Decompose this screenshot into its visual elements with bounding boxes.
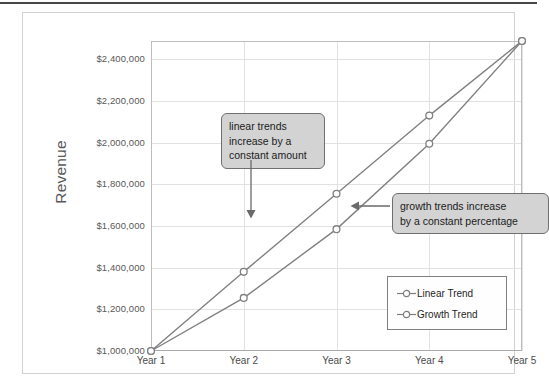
- annotation-growth-line-2: by a constant percentage: [400, 214, 541, 229]
- annotation-linear-line-3: constant amount: [229, 148, 317, 163]
- x-tick-label: Year 3: [322, 355, 351, 366]
- top-divider-rule: [0, 2, 537, 4]
- y-tick-label: $2,000,000: [61, 137, 145, 148]
- annotation-linear-trend: linear trends increase by a constant amo…: [221, 113, 325, 169]
- data-point-marker: [240, 268, 247, 275]
- chart-legend[interactable]: Linear Trend Growth Trend: [387, 276, 507, 330]
- annotation-growth-line-1: growth trends increase: [400, 199, 541, 214]
- data-point-marker: [148, 348, 155, 355]
- annotation-linear-line-2: increase by a: [229, 134, 317, 149]
- legend-item-growth-trend[interactable]: Growth Trend: [388, 304, 506, 325]
- data-point-marker: [426, 140, 433, 147]
- legend-marker-icon: [397, 288, 416, 299]
- y-tick-label: $1,400,000: [61, 262, 145, 273]
- data-point-marker: [519, 38, 526, 45]
- y-tick-label: $1,000,000: [61, 345, 145, 356]
- y-tick-label: $2,200,000: [61, 95, 145, 106]
- data-point-marker: [426, 112, 433, 119]
- data-point-marker: [333, 226, 340, 233]
- legend-label-linear-trend: Linear Trend: [417, 288, 473, 299]
- x-tick-label: Year 5: [508, 355, 537, 366]
- x-axis-tick-labels: Year 1Year 2Year 3Year 4Year 5: [151, 355, 522, 373]
- x-tick-label: Year 2: [230, 355, 259, 366]
- x-tick-label: Year 1: [137, 355, 166, 366]
- legend-label-growth-trend: Growth Trend: [417, 309, 478, 320]
- legend-item-linear-trend[interactable]: Linear Trend: [388, 283, 506, 304]
- annotation-linear-line-1: linear trends: [229, 119, 317, 134]
- y-tick-label: $1,800,000: [61, 178, 145, 189]
- x-tick-label: Year 4: [415, 355, 444, 366]
- annotation-growth-trend: growth trends increase by a constant per…: [392, 193, 549, 234]
- legend-marker-icon: [397, 309, 416, 320]
- y-tick-label: $1,200,000: [61, 303, 145, 314]
- data-point-marker: [333, 190, 340, 197]
- data-point-marker: [240, 294, 247, 301]
- y-tick-label: $2,400,000: [61, 53, 145, 64]
- y-axis-tick-labels: $1,000,000$1,200,000$1,400,000$1,600,000…: [59, 41, 145, 351]
- y-tick-label: $1,600,000: [61, 220, 145, 231]
- chart-frame: Revenue $1,000,000$1,200,000$1,400,000$1…: [22, 12, 515, 374]
